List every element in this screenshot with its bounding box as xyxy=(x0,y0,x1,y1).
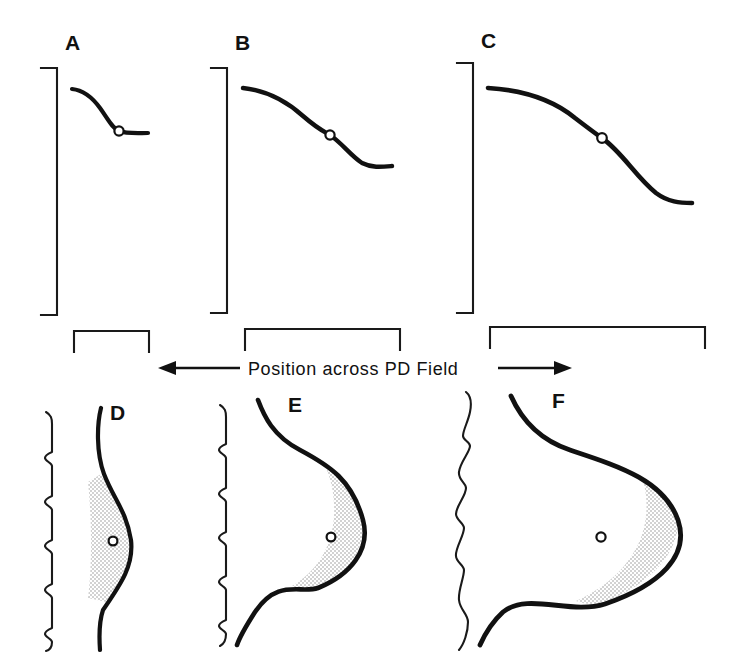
panel-a-label: A xyxy=(65,31,80,54)
panel-e-center-marker xyxy=(327,533,336,542)
figure-root: A B C Position across PD Field xyxy=(0,0,733,664)
panel-f-center-marker xyxy=(596,532,605,541)
panel-d-center-marker xyxy=(109,537,118,546)
figure-canvas: A B C Position across PD Field xyxy=(0,0,733,664)
panel-b-label: B xyxy=(235,31,250,54)
panel-d-label: D xyxy=(110,401,125,424)
panel-e-label: E xyxy=(288,393,302,416)
panel-a-midpoint-marker xyxy=(114,126,123,135)
panel-c-label: C xyxy=(481,29,496,52)
panel-c-midpoint-marker xyxy=(597,133,607,143)
panel-f-label: F xyxy=(552,389,565,412)
panel-b-midpoint-marker xyxy=(325,130,334,139)
axis-label-text: Position across PD Field xyxy=(248,359,458,379)
